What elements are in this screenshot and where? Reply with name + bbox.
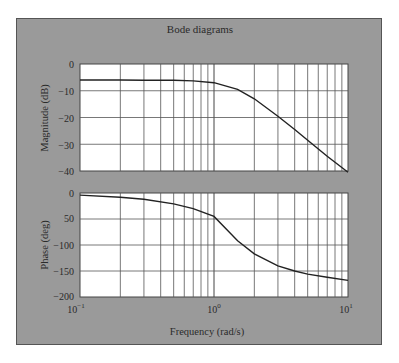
x-tick-0.1: 10−1	[67, 302, 85, 315]
mag-tick-30: −30	[58, 140, 74, 151]
magnitude-y-ticks: 0 −10 −20 −30 −40	[58, 59, 74, 177]
x-axis-label: Frequency (rad/s)	[170, 326, 245, 338]
phase-grid	[80, 193, 348, 297]
magnitude-plot: 0 −10 −20 −30 −40 Magnitude (dB)	[39, 59, 348, 177]
phase-y-ticks: 0 50 −100 −150 −200	[53, 188, 74, 302]
phase-plot: 0 50 −100 −150 −200 Phase (deg)	[39, 188, 348, 302]
phase-axis-label: Phase (deg)	[39, 220, 51, 270]
mag-tick-10: −10	[58, 86, 74, 97]
phase-tick-200: −200	[53, 291, 74, 302]
phase-tick-0: 0	[69, 188, 74, 199]
x-ticks: 10−1 100 101	[67, 302, 353, 315]
bode-plots: 0 −10 −20 −30 −40 Magnitude (dB) 0 50 −1…	[0, 0, 399, 363]
mag-tick-20: −20	[58, 113, 74, 124]
mag-tick-40: −40	[58, 166, 74, 177]
magnitude-axis-label: Magnitude (dB)	[39, 84, 51, 152]
phase-tick-150: −150	[53, 266, 74, 277]
mag-tick-0: 0	[69, 59, 74, 70]
phase-tick-50: 50	[64, 213, 74, 224]
phase-tick-100: −100	[53, 240, 74, 251]
x-tick-10: 101	[339, 302, 353, 315]
x-tick-1: 100	[207, 302, 221, 315]
